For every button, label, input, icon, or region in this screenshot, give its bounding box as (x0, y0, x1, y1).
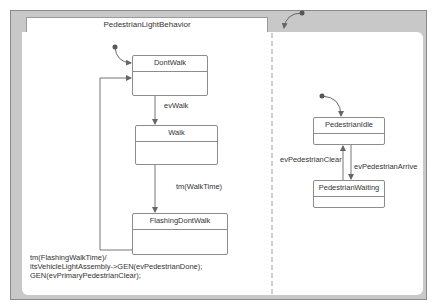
initial-state-dontwalk (113, 45, 132, 64)
transition-label-evwalk: evWalk (164, 101, 188, 110)
transition-label-evpedestrianclear: evPedestrianClear (280, 155, 342, 164)
state-pedestrianwaiting[interactable]: PedestrianWaiting (313, 180, 385, 208)
transition-label-line-3: GEN(evPrimaryPedestrianClear); (30, 271, 141, 280)
transition-tm-flashingwalktime[interactable] (100, 78, 132, 250)
top-initial-connector (284, 11, 305, 29)
state-name: PedestrianWaiting (314, 181, 384, 197)
transition-label-evpedestrianarrive: evPedestrianArrive (354, 162, 417, 171)
state-flashingdontwalk[interactable]: FlashingDontWalk (132, 213, 228, 255)
state-dontwalk[interactable]: DontWalk (132, 55, 208, 96)
state-name: PedestrianIdle (314, 118, 384, 134)
state-name: FlashingDontWalk (133, 214, 227, 230)
state-name: DontWalk (133, 56, 207, 72)
state-pedestrianidle[interactable]: PedestrianIdle (313, 117, 385, 145)
transition-label-tm-walktime: tm(WalkTime) (176, 182, 222, 191)
state-name: Walk (136, 126, 217, 142)
initial-state-pedestrianidle (320, 94, 342, 117)
transition-label-line-2: itsVehicleLightAssembly->GEN(evPedestria… (30, 262, 202, 271)
transition-label-line-1: tm(FlashingWalkTime)/ (30, 253, 107, 262)
state-walk[interactable]: Walk (135, 125, 218, 165)
